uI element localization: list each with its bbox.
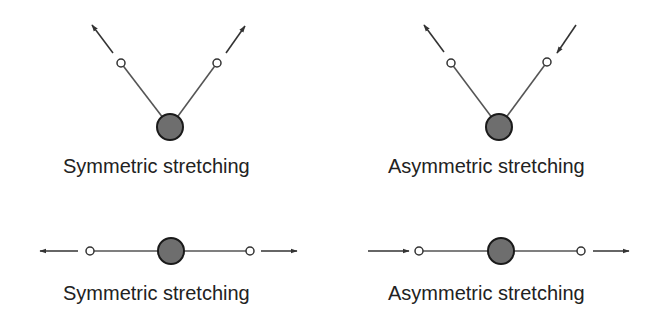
outer-atom: [447, 59, 455, 67]
central-atom: [157, 114, 183, 140]
outer-atom: [246, 247, 254, 255]
outer-atom: [86, 247, 94, 255]
arrows: [92, 25, 245, 53]
outer-atom: [543, 58, 551, 66]
central-atom: [486, 114, 512, 140]
label-bent-symmetric: Symmetric stretching: [63, 156, 250, 176]
outer-atom: [415, 247, 423, 255]
central-atom: [158, 238, 184, 264]
panel-bent-symmetric: [92, 25, 245, 140]
displacement-arrow-icon: [92, 25, 113, 53]
arrows: [424, 25, 576, 53]
panel-linear-asymmetric: [368, 238, 629, 264]
displacement-arrow-icon: [226, 26, 245, 53]
label-linear-asymmetric: Asymmetric stretching: [388, 283, 585, 303]
central-atom: [486, 114, 512, 140]
displacement-arrow-icon: [557, 25, 576, 53]
label-linear-symmetric: Symmetric stretching: [63, 283, 250, 303]
outer-atom: [577, 247, 585, 255]
outer-atom: [213, 59, 221, 67]
outer-atom: [117, 59, 125, 67]
displacement-arrow-icon: [424, 25, 444, 52]
panel-linear-symmetric: [40, 238, 297, 264]
label-bent-asymmetric: Asymmetric stretching: [388, 156, 585, 176]
outer-atoms: [117, 59, 221, 67]
central-atom: [488, 238, 514, 264]
outer-atoms: [447, 58, 551, 67]
panel-bent-asymmetric: [424, 25, 576, 140]
central-atom: [157, 114, 183, 140]
central-atom: [158, 238, 184, 264]
central-atom: [488, 238, 514, 264]
